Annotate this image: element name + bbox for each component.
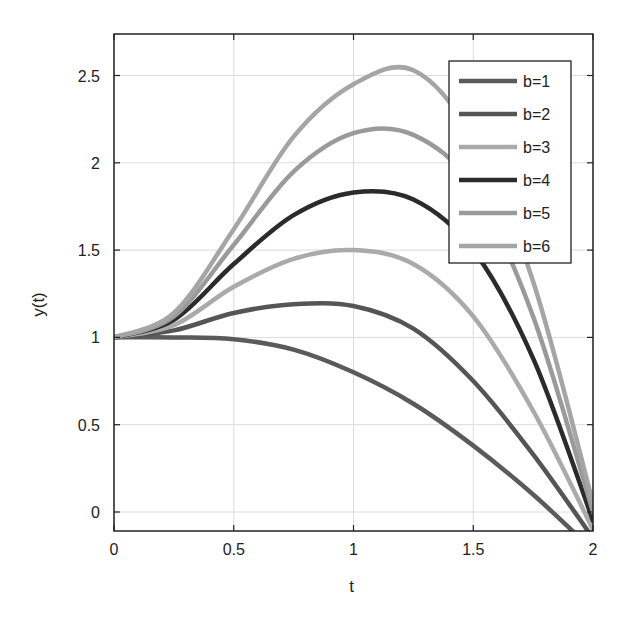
x-tick-label: 0.5 [223, 541, 245, 558]
legend-label: b=3 [523, 139, 550, 156]
x-tick-label: 1.5 [462, 541, 484, 558]
y-tick-label: 2 [91, 155, 100, 172]
legend-label: b=6 [523, 238, 550, 255]
y-tick-label: 1 [91, 329, 100, 346]
legend-label: b=5 [523, 205, 550, 222]
legend-label: b=4 [523, 172, 550, 189]
y-tick-label: 1.5 [78, 242, 100, 259]
x-tick-label: 2 [589, 541, 598, 558]
legend: b=1b=2b=3b=4b=5b=6 [449, 61, 571, 263]
legend-box [449, 61, 571, 263]
x-tick-label: 0 [110, 541, 119, 558]
line-chart: 00.511.5200.511.522.5 t y(t) b=1b=2b=3b=… [0, 0, 627, 626]
x-axis-label: t [349, 577, 354, 596]
legend-label: b=2 [523, 106, 550, 123]
y-axis-label: y(t) [29, 292, 48, 317]
legend-label: b=1 [523, 73, 550, 90]
y-tick-label: 0.5 [78, 417, 100, 434]
y-tick-label: 0 [91, 504, 100, 521]
y-tick-label: 2.5 [78, 68, 100, 85]
x-tick-label: 1 [349, 541, 358, 558]
